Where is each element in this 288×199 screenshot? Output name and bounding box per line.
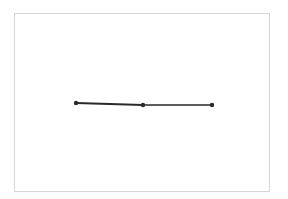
segment-left-middle	[76, 103, 143, 105]
point-left	[74, 101, 78, 105]
point-middle	[141, 103, 145, 107]
sketch-canvas	[0, 0, 288, 199]
line-segment-drawing	[0, 0, 288, 199]
point-right	[210, 103, 214, 107]
